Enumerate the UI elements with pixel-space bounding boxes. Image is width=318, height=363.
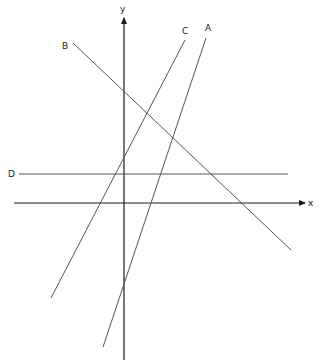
line-b-label: B [62, 41, 68, 51]
line-c-label: C [182, 26, 188, 36]
coordinate-diagram: x y A B C D [0, 0, 318, 363]
line-a-label: A [205, 23, 212, 33]
line-a [103, 38, 206, 347]
y-axis-label: y [120, 4, 126, 14]
line-d-label: D [8, 169, 15, 179]
line-c [51, 40, 185, 298]
line-b [73, 43, 291, 250]
x-axis-label: x [308, 198, 314, 208]
